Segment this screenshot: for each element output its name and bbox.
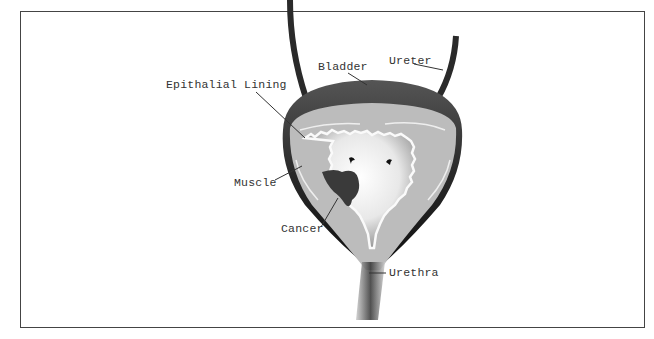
label-urethra: Urethra — [389, 266, 439, 279]
ureter-right — [438, 36, 456, 98]
label-bladder: Bladder — [318, 60, 368, 73]
label-cancer: Cancer — [281, 222, 324, 235]
urethra — [356, 262, 385, 320]
bladder-illustration — [0, 0, 654, 339]
label-epithelial-lining: Epithalial Lining — [166, 78, 287, 91]
ureter-left — [290, 0, 306, 98]
label-ureter: Ureter — [389, 54, 432, 67]
label-muscle: Muscle — [234, 176, 277, 189]
